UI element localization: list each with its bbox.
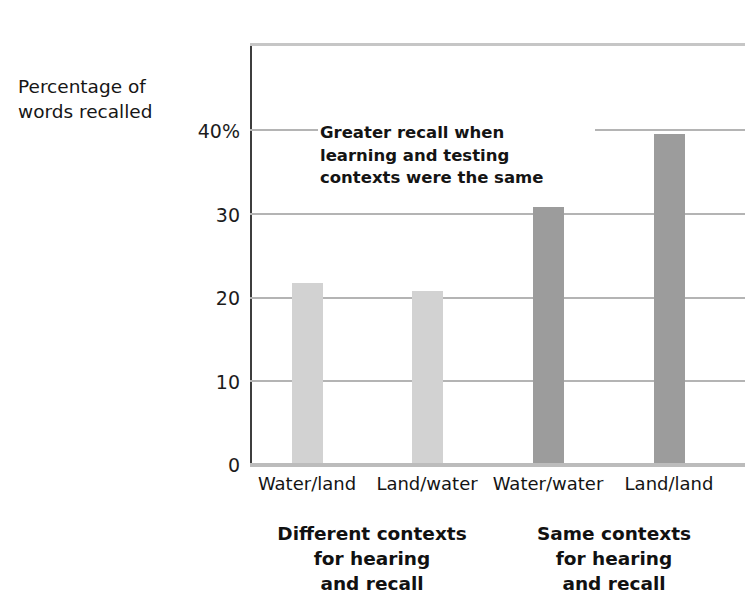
- x-tick-label-land-land: Land/land: [609, 473, 729, 494]
- y-tick-label-20: 20: [150, 287, 240, 309]
- x-tick-label-water-water: Water/water: [488, 473, 608, 494]
- y-axis-title: Percentage of words recalled: [18, 74, 218, 124]
- group-caption-different-contexts: Different contexts for hearing and recal…: [252, 521, 492, 590]
- x-tick-label-water-land: Water/land: [247, 473, 367, 494]
- x-axis-baseline: [250, 463, 745, 467]
- bar-water-water: [533, 207, 564, 463]
- bar-water-land: [292, 283, 323, 463]
- chart-plot-area: [250, 46, 745, 465]
- y-tick-label-0: 0: [150, 454, 240, 476]
- bar-land-water: [412, 291, 443, 463]
- plot-top-border: [250, 43, 745, 46]
- x-tick-label-land-water: Land/water: [367, 473, 487, 494]
- gridline-40-left: [250, 129, 318, 131]
- y-tick-label-10: 10: [150, 371, 240, 393]
- bar-land-land: [654, 134, 685, 463]
- group-caption-same-contexts: Same contexts for hearing and recall: [494, 521, 734, 590]
- y-axis-line: [250, 46, 252, 465]
- gridline-40-right: [595, 129, 745, 131]
- y-tick-label-30: 30: [150, 204, 240, 226]
- chart-annotation: Greater recall when learning and testing…: [320, 122, 580, 190]
